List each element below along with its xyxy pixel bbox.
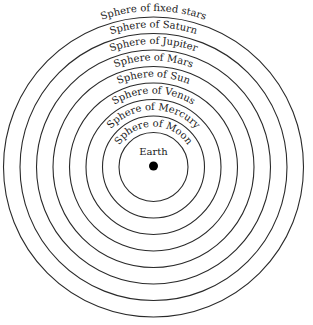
geocentric-diagram: Sphere of fixed stars Sphere of Saturn S… — [0, 0, 313, 325]
earth-dot-icon — [149, 162, 158, 171]
earth-label: Earth — [139, 146, 168, 157]
